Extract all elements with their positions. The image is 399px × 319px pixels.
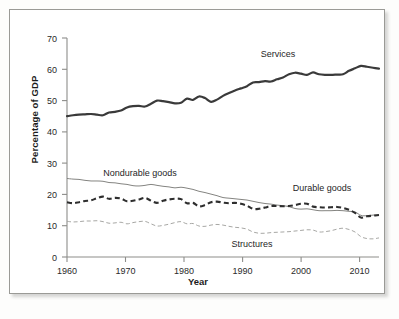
y-axis-ticks: [62, 38, 67, 257]
x-tick-label-2000: 2000: [291, 266, 311, 276]
series-label-nondurable-goods: Nondurable goods: [103, 168, 177, 178]
series-label-structures: Structures: [231, 239, 273, 249]
y-tick-label-70: 70: [47, 34, 57, 44]
series-label-durable-goods: Durable goods: [293, 183, 352, 193]
y-tick-label-60: 60: [47, 65, 57, 75]
series-line-structures: [67, 221, 379, 239]
x-tick-label-1980: 1980: [174, 266, 194, 276]
y-tick-label-0: 0: [52, 253, 57, 263]
x-tick-label-1990: 1990: [233, 266, 253, 276]
x-tick-label-1970: 1970: [115, 266, 135, 276]
series-line-services: [67, 66, 379, 116]
y-tick-label-10: 10: [47, 221, 57, 231]
x-tick-label-1960: 1960: [57, 266, 77, 276]
y-tick-label-30: 30: [47, 159, 57, 169]
y-tick-label-20: 20: [47, 190, 57, 200]
y-tick-label-50: 50: [47, 96, 57, 106]
series-line-durable-goods: [67, 197, 379, 218]
x-tick-label-2010: 2010: [350, 266, 370, 276]
line-chart-plot: 0 10 20 30 40 50 60 70 1960 1970 1980 19…: [10, 10, 386, 295]
x-axis-ticks: [67, 257, 360, 262]
figure-container: Percentage of GDP Year 0 10 20 30 40: [0, 0, 399, 319]
chart-frame: Percentage of GDP Year 0 10 20 30 40: [9, 9, 385, 294]
y-tick-label-40: 40: [47, 127, 57, 137]
series-label-services: Services: [261, 49, 296, 59]
